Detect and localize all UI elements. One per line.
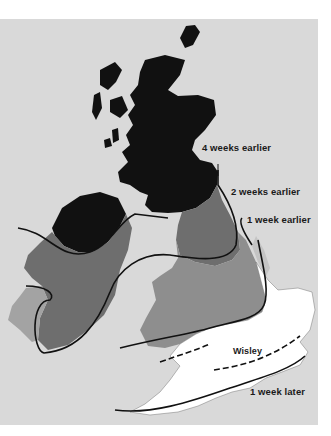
label-1-week-later: 1 week later bbox=[250, 386, 305, 397]
label-wisley: Wisley bbox=[233, 346, 262, 356]
label-2-weeks-earlier: 2 weeks earlier bbox=[231, 186, 300, 197]
label-1-week-earlier: 1 week earlier bbox=[247, 214, 311, 225]
label-4-weeks-earlier: 4 weeks earlier bbox=[202, 142, 271, 153]
scotland-region bbox=[92, 25, 218, 213]
